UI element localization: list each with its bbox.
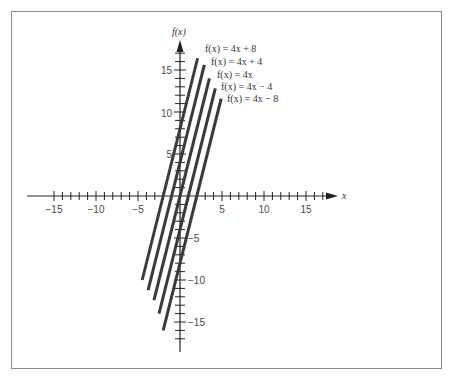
y-tick-label: 10 [161, 108, 173, 119]
y-tick-label: −10 [188, 275, 205, 286]
line-label-4x-plus-8: f(x) = 4x + 8 [205, 43, 256, 55]
series-line-1 [148, 65, 204, 290]
x-tick-label: −15 [46, 204, 63, 215]
x-tick-label: 5 [219, 204, 225, 215]
y-axis-label: f(x) [172, 26, 187, 38]
x-axis-arrow-icon [326, 193, 338, 200]
y-axis-arrow-icon [177, 40, 184, 52]
line-label-4x-minus-4: f(x) = 4x − 4 [221, 81, 272, 93]
line-label-4x: f(x) = 4x [217, 69, 253, 81]
line-labels: f(x) = 4x + 8 f(x) = 4x + 4 f(x) = 4x f(… [205, 43, 278, 105]
x-tick-label: 10 [258, 204, 270, 215]
x-tick-label: −10 [88, 204, 105, 215]
x-tick-label: 15 [300, 204, 312, 215]
series-line-4 [163, 99, 221, 331]
series-line-0 [142, 58, 197, 280]
y-tick-label: −5 [188, 233, 200, 244]
x-tick-label: −5 [132, 204, 144, 215]
x-axis-label: x [341, 190, 347, 201]
y-tick-label: −15 [188, 317, 205, 328]
line-label-4x-plus-4: f(x) = 4x + 4 [211, 56, 262, 68]
chart-canvas: x −15 −10 −5 5 10 15 f(x) 15 10 5 −5 −10… [0, 0, 454, 382]
line-label-4x-minus-8: f(x) = 4x − 8 [227, 93, 278, 105]
y-tick-label: 15 [161, 65, 173, 76]
series-lines [142, 58, 221, 330]
